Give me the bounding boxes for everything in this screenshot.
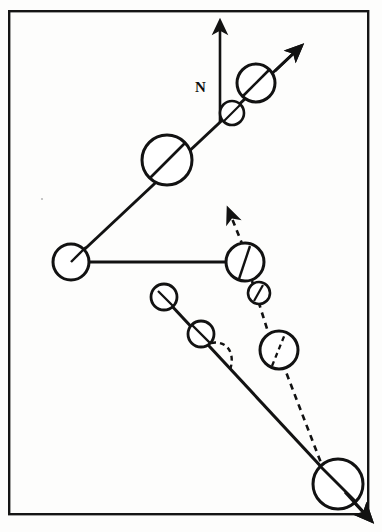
node-c5 bbox=[226, 243, 264, 281]
node-c2 bbox=[237, 64, 275, 102]
scan-speck bbox=[41, 198, 43, 200]
north-label: N bbox=[195, 80, 206, 95]
arrowhead-upper-overlay bbox=[275, 51, 296, 71]
node-c8 bbox=[151, 284, 177, 310]
diagram-canvas bbox=[0, 0, 382, 532]
edge-dashed-down bbox=[252, 281, 323, 468]
figure-root: N bbox=[0, 0, 382, 532]
node-c9 bbox=[188, 321, 214, 347]
node-c3 bbox=[142, 135, 192, 185]
node-c1 bbox=[220, 101, 244, 125]
node-c4 bbox=[53, 244, 89, 280]
node-c7 bbox=[260, 331, 298, 369]
edge-dashed-up bbox=[231, 216, 243, 246]
node-circle bbox=[260, 331, 298, 369]
node-c6 bbox=[248, 282, 270, 304]
